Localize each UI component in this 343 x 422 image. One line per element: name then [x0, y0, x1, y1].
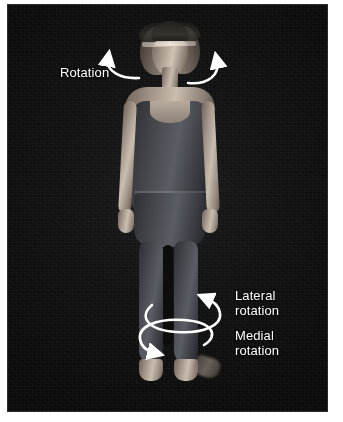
anatomy-photograph: Rotation Lateral rotation Medial rotatio… — [8, 5, 327, 411]
page-canvas: Rotation Lateral rotation Medial rotatio… — [0, 0, 343, 422]
medial-rotation-arrow — [140, 320, 212, 353]
rotation-label: Rotation — [60, 66, 109, 81]
annotation-overlay: Rotation Lateral rotation Medial rotatio… — [8, 5, 327, 411]
lateral-rotation-label: Lateral rotation — [235, 289, 279, 318]
head-rotation-arrow-left — [108, 59, 139, 78]
medial-rotation-label: Medial rotation — [235, 329, 279, 358]
head-rotation-arrow-right — [188, 61, 217, 83]
